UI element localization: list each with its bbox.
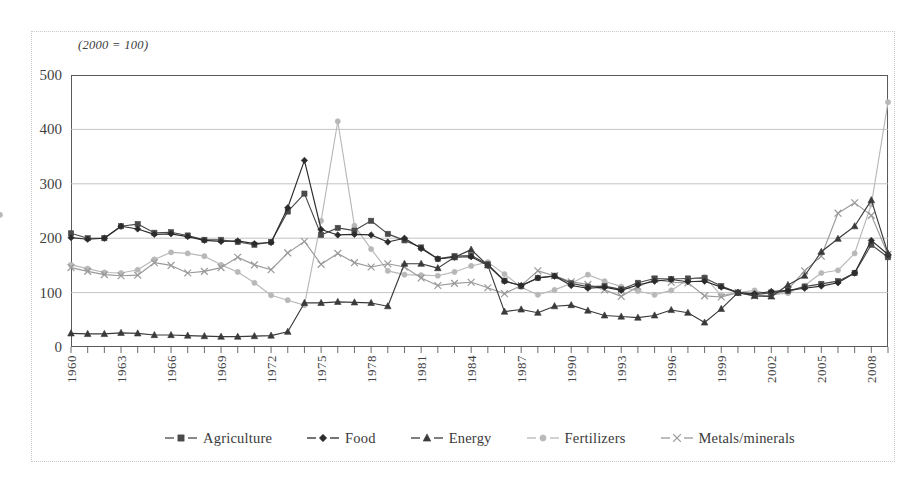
legend-item-metals-minerals[interactable]: Metals/minerals (660, 430, 795, 447)
gridlines (71, 129, 888, 292)
legend-label: Energy (449, 430, 492, 447)
legend-label: Agriculture (203, 430, 272, 447)
legend-item-agriculture[interactable]: Agriculture (164, 430, 272, 447)
cross-marker-icon (660, 431, 694, 445)
legend-item-energy[interactable]: Energy (410, 430, 492, 447)
legend-label: Metals/minerals (699, 430, 795, 447)
square-marker-icon (164, 431, 198, 445)
legend-label: Fertilizers (565, 430, 626, 447)
chart-page: (2000 = 100) 0100200300400500 1960196319… (0, 0, 921, 493)
legend-label: Food (345, 430, 376, 447)
data-series-layer (0, 100, 891, 340)
series-energy (68, 197, 892, 340)
triangle-marker-icon (410, 431, 444, 445)
series-fertilizers (0, 100, 891, 308)
series-metals-minerals (68, 199, 892, 300)
chart-legend: AgricultureFoodEnergyFertilizersMetals/m… (71, 424, 888, 452)
circle-marker-icon (526, 431, 560, 445)
series-agriculture (68, 191, 890, 297)
x-axis-ticks (71, 347, 888, 353)
legend-item-fertilizers[interactable]: Fertilizers (526, 430, 626, 447)
diamond-marker-icon (306, 431, 340, 445)
legend-item-food[interactable]: Food (306, 430, 376, 447)
chart-svg (0, 0, 921, 493)
